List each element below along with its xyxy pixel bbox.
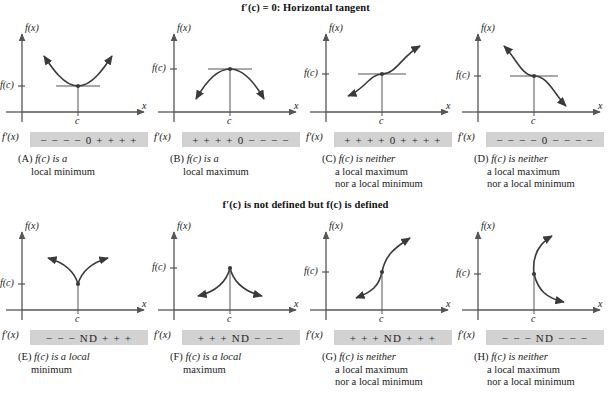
caption-line: nor a local minimum — [322, 376, 456, 389]
x-axis-label: x — [446, 298, 450, 309]
derivative-sign-label: f′(x) — [154, 329, 171, 340]
panel-tag: (E) — [18, 351, 31, 362]
graph-b: f(x) x f(c) c — [152, 24, 304, 128]
graph-e: f(x) x f(c) c — [0, 222, 152, 326]
x-axis-label: x — [142, 298, 146, 309]
sign-chart-h: − − − ND − − − — [486, 330, 604, 345]
fc-value-label: f(c) — [152, 62, 166, 73]
graph-a: f(x) x f(c) c — [0, 24, 152, 128]
y-axis-label: f(x) — [481, 220, 495, 231]
panel-e: f(x) x f(c) c f′(x) − − − ND + + + (E) f… — [0, 208, 152, 398]
caption-line: a local maximum — [474, 166, 608, 179]
critical-point-label: c — [531, 115, 535, 126]
panel-d: f(x) x f(c) c f′(x) − − − − 0 − − − − (D… — [456, 10, 608, 200]
panel-f: f(x) x f(c) c f′(x) + + + ND − − − (F) f… — [152, 208, 304, 398]
panel-tag: (F) — [170, 351, 183, 362]
sign-chart-f: + + + ND − − − — [182, 330, 300, 345]
caption-line: nor a local minimum — [474, 178, 608, 191]
sign-chart-d: − − − − 0 − − − − — [486, 132, 604, 147]
x-axis-label: x — [598, 298, 602, 309]
fc-value-label: f(c) — [0, 277, 14, 288]
critical-point-label: c — [75, 313, 79, 324]
caption-f: (F) f(c) is a local maximum — [170, 351, 304, 376]
caption-line: local minimum — [18, 166, 152, 179]
panel-tag: (A) — [18, 153, 33, 164]
sign-chart-g: + + + ND + + + — [334, 330, 452, 345]
sign-chart-e: − − − ND + + + — [30, 330, 148, 345]
caption-a: (A) f(c) is a local minimum — [18, 153, 152, 178]
caption-first-line: f(c) is a local — [185, 351, 241, 362]
caption-b: (B) f(c) is a local maximum — [170, 153, 304, 178]
x-axis-label: x — [294, 100, 298, 111]
panel-tag: (D) — [474, 153, 489, 164]
critical-point-label: c — [531, 313, 535, 324]
derivative-sign-label: f′(x) — [306, 329, 323, 340]
derivative-sign-label: f′(x) — [306, 131, 323, 142]
x-axis-label: x — [598, 100, 602, 111]
caption-c: (C) f(c) is neither a local maximumnor a… — [322, 153, 456, 191]
y-axis-label: f(x) — [177, 220, 191, 231]
caption-first-line: f(c) is a — [35, 153, 67, 164]
caption-first-line: f(c) is neither — [491, 351, 548, 362]
figure-root: f′(c) = 0: Horizontal tangent f′(c) is n… — [0, 0, 611, 398]
panel-tag: (B) — [170, 153, 184, 164]
caption-h: (H) f(c) is neither a local maximumnor a… — [474, 351, 608, 389]
caption-g: (G) f(c) is neither a local maximumnor a… — [322, 351, 456, 389]
y-axis-label: f(x) — [177, 22, 191, 33]
fc-value-label: f(c) — [0, 79, 14, 90]
graph-c: f(x) x f(c) c — [304, 24, 456, 128]
critical-point-label: c — [75, 115, 79, 126]
caption-line: a local maximum — [322, 364, 456, 377]
y-axis-label: f(x) — [481, 22, 495, 33]
panel-b: f(x) x f(c) c f′(x) + + + + 0 − − − − (B… — [152, 10, 304, 200]
derivative-sign-label: f′(x) — [458, 131, 475, 142]
panel-c: f(x) x f(c) c f′(x) + + + + 0 + + + + (C… — [304, 10, 456, 200]
x-axis-label: x — [142, 100, 146, 111]
graph-f: f(x) x f(c) c — [152, 222, 304, 326]
critical-point-label: c — [227, 313, 231, 324]
caption-line: nor a local minimum — [474, 376, 608, 389]
sign-chart-a: − − − − 0 + + + + — [30, 132, 148, 147]
fc-value-label: f(c) — [456, 69, 470, 80]
sign-chart-c: + + + + 0 + + + + — [334, 132, 452, 147]
caption-line: maximum — [170, 364, 304, 377]
caption-line: a local maximum — [322, 166, 456, 179]
derivative-sign-label: f′(x) — [458, 329, 475, 340]
panel-tag: (H) — [474, 351, 489, 362]
caption-d: (D) f(c) is neither a local maximumnor a… — [474, 153, 608, 191]
y-axis-label: f(x) — [25, 220, 39, 231]
caption-first-line: f(c) is a — [187, 153, 219, 164]
caption-first-line: f(c) is neither — [491, 153, 548, 164]
derivative-sign-label: f′(x) — [2, 131, 19, 142]
panel-tag: (G) — [322, 351, 337, 362]
caption-line: local maximum — [170, 166, 304, 179]
caption-line: nor a local minimum — [322, 178, 456, 191]
fc-value-label: f(c) — [152, 261, 166, 272]
y-axis-label: f(x) — [25, 22, 39, 33]
y-axis-label: f(x) — [329, 220, 343, 231]
panel-tag: (C) — [322, 153, 336, 164]
caption-first-line: f(c) is a local — [34, 351, 90, 362]
caption-first-line: f(c) is neither — [339, 351, 396, 362]
panel-g: f(x) x f(c) c f′(x) + + + ND + + + (G) f… — [304, 208, 456, 398]
caption-line: minimum — [18, 364, 152, 377]
critical-point-label: c — [379, 313, 383, 324]
critical-point-label: c — [379, 115, 383, 126]
fc-value-label: f(c) — [456, 267, 470, 278]
caption-e: (E) f(c) is a local minimum — [18, 351, 152, 376]
graph-g: f(x) x f(c) c — [304, 222, 456, 326]
graph-h: f(x) x f(c) c — [456, 222, 608, 326]
critical-point-label: c — [227, 115, 231, 126]
caption-line: a local maximum — [474, 364, 608, 377]
x-axis-label: x — [294, 298, 298, 309]
fc-value-label: f(c) — [304, 265, 318, 276]
derivative-sign-label: f′(x) — [154, 131, 171, 142]
sign-chart-b: + + + + 0 − − − − — [182, 132, 300, 147]
y-axis-label: f(x) — [329, 22, 343, 33]
derivative-sign-label: f′(x) — [2, 329, 19, 340]
caption-first-line: f(c) is neither — [339, 153, 396, 164]
panel-a: f(x) x f(c) c f′(x) − − − − 0 + + + + (A… — [0, 10, 152, 200]
panel-h: f(x) x f(c) c f′(x) − − − ND − − − (H) f… — [456, 208, 608, 398]
fc-value-label: f(c) — [304, 67, 318, 78]
x-axis-label: x — [446, 100, 450, 111]
